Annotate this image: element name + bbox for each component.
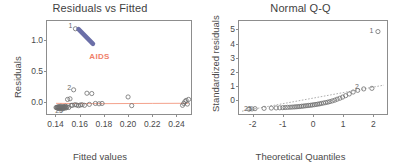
y-tick-label: 3: [225, 53, 235, 63]
data-point: [87, 102, 91, 106]
x-tick-label: 0.22: [140, 119, 164, 129]
x-tick-label: 2: [361, 119, 385, 129]
data-point: [347, 92, 351, 96]
y-tick-mark: [236, 58, 239, 59]
point-label-25: 25: [244, 105, 252, 112]
y-tick-label: 4: [225, 39, 235, 49]
x-tick-label: -2: [241, 119, 265, 129]
data-point: [72, 88, 76, 92]
plot-area-normal-qq: [238, 20, 388, 115]
plot-canvas-normal-qq: [239, 21, 387, 114]
point-label-1: 1: [68, 22, 72, 29]
x-tick-mark: [80, 114, 81, 117]
x-tick-mark: [313, 114, 314, 117]
panel-residuals-vs-fitted: Residuals vs Fitted Residuals Fitted val…: [0, 0, 200, 166]
y-tick-label: 1: [225, 81, 235, 91]
y-tick-mark: [236, 100, 239, 101]
x-tick-mark: [373, 114, 374, 117]
x-tick-label: 0.24: [164, 119, 188, 129]
data-point: [338, 96, 342, 100]
x-tick-label: 1: [331, 119, 355, 129]
y-tick-mark: [44, 102, 47, 103]
x-tick-label: -1: [271, 119, 295, 129]
x-tick-label: 0.18: [92, 119, 116, 129]
x-tick-label: 0.16: [68, 119, 92, 129]
x-tick-mark: [152, 114, 153, 117]
point-label-2: 2: [67, 84, 71, 91]
y-tick-label: 0.5: [25, 66, 43, 76]
x-tick-label: 0.20: [116, 119, 140, 129]
x-tick-mark: [128, 114, 129, 117]
y-tick-mark: [44, 71, 47, 72]
data-point: [90, 91, 94, 95]
y-tick-mark: [236, 86, 239, 87]
y-tick-label: 1.0: [25, 35, 43, 45]
plot-area-residuals-vs-fitted: [46, 20, 192, 115]
x-tick-mark: [283, 114, 284, 117]
y-tick-label: 0.0: [25, 97, 43, 107]
data-point: [376, 29, 380, 33]
y-tick-label: 0: [225, 95, 235, 105]
annotation-arrow: [78, 29, 93, 44]
y-axis-label-residuals: Residuals: [12, 56, 23, 98]
annotation-label-aids: AIDS: [89, 52, 109, 61]
data-point: [130, 104, 134, 108]
x-tick-mark: [253, 114, 254, 117]
x-axis-label-theoretical-quantiles: Theoretical Quantiles: [200, 151, 401, 162]
plot-title-normal-qq: Normal Q-Q: [200, 2, 401, 14]
y-tick-mark: [236, 44, 239, 45]
y-axis-label-standardized-residuals: Standardized residuals: [210, 15, 221, 112]
y-tick-mark: [236, 72, 239, 73]
point-label-25: 25: [55, 107, 63, 114]
data-point: [370, 86, 374, 90]
y-tick-mark: [236, 29, 239, 30]
data-point: [269, 106, 273, 110]
x-tick-label: 0: [301, 119, 325, 129]
plot-canvas-residuals-vs-fitted: [47, 21, 191, 114]
figure-root: Residuals vs Fitted Residuals Fitted val…: [0, 0, 401, 166]
y-tick-mark: [44, 40, 47, 41]
data-point: [85, 91, 89, 95]
panel-normal-qq: Normal Q-Q Standardized residuals Theore…: [200, 0, 401, 166]
data-point: [126, 95, 130, 99]
x-tick-mark: [104, 114, 105, 117]
x-axis-label-fitted-values: Fitted values: [0, 151, 200, 162]
plot-title-residuals-vs-fitted: Residuals vs Fitted: [0, 2, 200, 14]
x-tick-mark: [176, 114, 177, 117]
y-tick-label: 5: [225, 24, 235, 34]
x-tick-mark: [343, 114, 344, 117]
x-tick-mark: [55, 114, 56, 117]
point-label-2: 2: [355, 83, 359, 90]
point-label-1: 1: [369, 27, 373, 34]
x-tick-label: 0.14: [43, 119, 67, 129]
y-tick-label: 2: [225, 67, 235, 77]
